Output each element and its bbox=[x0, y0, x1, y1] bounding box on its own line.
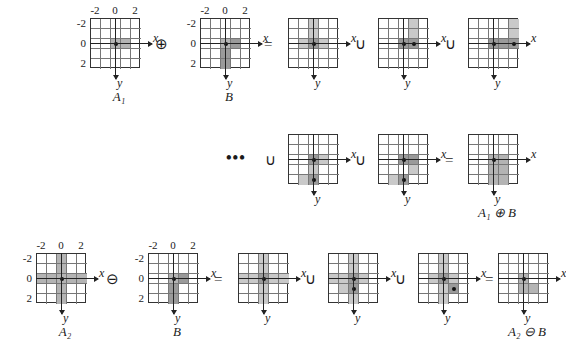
y-axis bbox=[403, 18, 404, 79]
grid-cell bbox=[299, 155, 309, 165]
grid-cell bbox=[101, 59, 111, 69]
grid-cell bbox=[249, 254, 259, 264]
grid-cell bbox=[299, 175, 309, 185]
grid-cell bbox=[269, 264, 279, 274]
grid-cell bbox=[459, 284, 469, 294]
grid-cell bbox=[169, 284, 179, 294]
grid-cell bbox=[67, 254, 77, 264]
grid-cell bbox=[529, 284, 539, 294]
x-axis-label: x bbox=[531, 32, 536, 44]
grid-cell bbox=[389, 19, 399, 29]
grid-cell bbox=[409, 145, 419, 155]
grid-cell bbox=[419, 29, 429, 39]
grid-cell bbox=[57, 284, 67, 294]
grid-cell bbox=[241, 19, 251, 29]
grid-caption: A₁ ⊕ B bbox=[477, 206, 517, 219]
y-axis bbox=[493, 134, 494, 195]
tick-x: -2 bbox=[144, 240, 162, 251]
grid-cell bbox=[169, 294, 179, 304]
grid-cell bbox=[359, 294, 369, 304]
grid-cell bbox=[479, 19, 489, 29]
grid-cell bbox=[169, 264, 179, 274]
grid-cell bbox=[111, 59, 121, 69]
grid-cell bbox=[57, 274, 67, 284]
grid-cell bbox=[399, 175, 409, 185]
x-axis bbox=[378, 43, 440, 44]
grid-cell bbox=[539, 284, 549, 294]
grid-cell bbox=[419, 175, 429, 185]
op-equals-1: = bbox=[264, 37, 272, 52]
grid-cell bbox=[57, 264, 67, 274]
grid-cell bbox=[309, 155, 319, 165]
grid-widget-erode-term-3: xy bbox=[418, 253, 468, 303]
y-axis bbox=[173, 253, 174, 314]
grid-cell bbox=[329, 294, 339, 304]
grid-cell bbox=[179, 294, 189, 304]
grid-cell bbox=[489, 165, 499, 175]
grid-cell bbox=[289, 39, 299, 49]
grid-cell bbox=[499, 49, 509, 59]
grid-widget-translate-0: xy bbox=[468, 18, 518, 68]
grid-cell bbox=[379, 39, 389, 49]
grid-cell bbox=[449, 284, 459, 294]
grid-cell bbox=[77, 294, 87, 304]
x-axis bbox=[468, 159, 530, 160]
grid-cell bbox=[249, 274, 259, 284]
grid-cell bbox=[269, 294, 279, 304]
op-union-5: ∪ bbox=[305, 272, 316, 287]
grid-cell bbox=[189, 274, 199, 284]
grid-cell bbox=[241, 29, 251, 39]
grid-cell bbox=[249, 294, 259, 304]
tick-x: -2 bbox=[86, 5, 104, 16]
grid-cell bbox=[309, 59, 319, 69]
grid-cell bbox=[469, 59, 479, 69]
grid-cell bbox=[499, 165, 509, 175]
y-axis-label: y bbox=[525, 312, 530, 324]
grid-cell bbox=[429, 284, 439, 294]
grid-cell bbox=[409, 29, 419, 39]
grid-cell bbox=[409, 175, 419, 185]
grid-cell bbox=[299, 135, 309, 145]
grid-cell bbox=[449, 274, 459, 284]
y-axis-label: y bbox=[175, 312, 180, 324]
grid-cell bbox=[539, 254, 549, 264]
grid-cell bbox=[279, 254, 289, 264]
x-axis bbox=[468, 43, 530, 44]
grid-cell bbox=[449, 294, 459, 304]
grid-cell bbox=[231, 49, 241, 59]
grid-cell bbox=[499, 155, 509, 165]
grid-cell bbox=[499, 145, 509, 155]
grid-cell bbox=[499, 175, 509, 185]
grid-cell bbox=[259, 274, 269, 284]
grid-cell bbox=[439, 264, 449, 274]
tick-y: 2 bbox=[128, 293, 144, 304]
grid-cell bbox=[409, 39, 419, 49]
grid-cell bbox=[439, 294, 449, 304]
grid-cell bbox=[91, 59, 101, 69]
grid-cell bbox=[309, 175, 319, 185]
grid-cell bbox=[379, 155, 389, 165]
grid-cell bbox=[449, 264, 459, 274]
grid-cell bbox=[77, 274, 87, 284]
grid-cell bbox=[499, 284, 509, 294]
y-axis-label: y bbox=[63, 312, 68, 324]
grid-cell bbox=[329, 29, 339, 39]
grid-cell bbox=[429, 254, 439, 264]
grid-cell bbox=[399, 29, 409, 39]
grid-cell bbox=[359, 254, 369, 264]
x-axis-label: x bbox=[561, 267, 566, 279]
grid-cell bbox=[289, 135, 299, 145]
grid-cell bbox=[299, 59, 309, 69]
grid-cell bbox=[369, 254, 379, 264]
y-axis bbox=[493, 18, 494, 79]
grid-caption: B bbox=[157, 325, 197, 338]
grid-cell bbox=[499, 264, 509, 274]
tick-y: 0 bbox=[70, 38, 86, 49]
grid-cell bbox=[329, 145, 339, 155]
tick-y: -2 bbox=[70, 18, 86, 29]
grid-cell bbox=[469, 145, 479, 155]
grid-cell bbox=[289, 165, 299, 175]
grid-cell bbox=[309, 135, 319, 145]
grid-cell bbox=[111, 39, 121, 49]
grid-cell bbox=[369, 274, 379, 284]
